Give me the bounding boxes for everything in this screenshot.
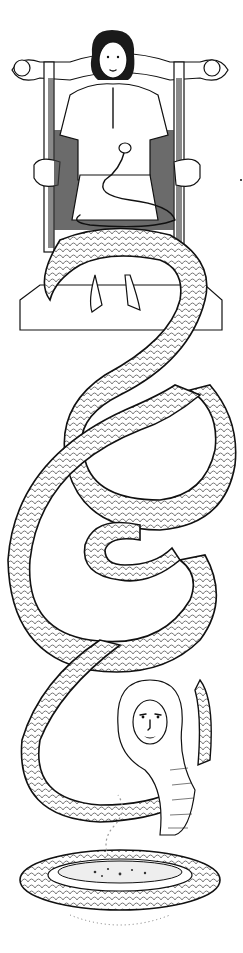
illustration — [0, 0, 243, 953]
giant-serpent — [8, 229, 236, 910]
right-finial-face — [204, 60, 220, 76]
left-finial-face — [14, 60, 30, 76]
right-armrest-face — [174, 159, 200, 186]
